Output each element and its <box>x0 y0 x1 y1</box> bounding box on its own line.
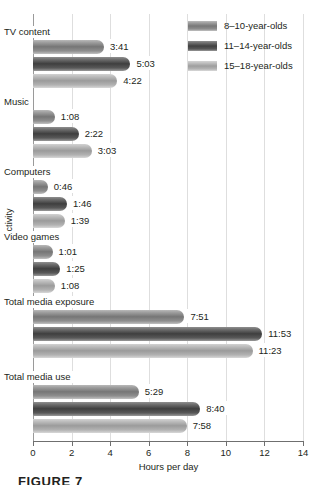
bar-value-label: 7:51 <box>187 309 211 323</box>
bar <box>33 144 92 158</box>
x-axis-tick-label: 0 <box>21 447 45 458</box>
bar-value-label: 2:22 <box>82 126 106 140</box>
x-axis-tick-14 <box>303 441 304 446</box>
legend-item: 15–18-year-olds <box>188 56 293 71</box>
bar <box>33 327 262 341</box>
bar-row: 4:22 <box>33 74 303 88</box>
bar-value-label: 1:01 <box>56 244 80 258</box>
bar-value-label: 4:22 <box>120 73 144 87</box>
legend-item: 11–14-year-olds <box>188 36 293 51</box>
x-axis-tick-12 <box>264 441 265 446</box>
bar-row: 1:01 <box>33 245 303 259</box>
x-axis-tick-2 <box>72 441 73 446</box>
x-axis-tick-label: 4 <box>98 447 122 458</box>
x-axis-tick-label: 8 <box>175 447 199 458</box>
bar <box>33 310 184 324</box>
bar-value-label: 8:40 <box>203 401 227 415</box>
x-axis-tick-label: 6 <box>137 447 161 458</box>
figure-caption: FIGURE 7 <box>18 474 83 485</box>
legend-swatch <box>188 21 217 31</box>
bar-value-label: 0:46 <box>51 179 75 193</box>
bar-row: 5:29 <box>33 385 303 399</box>
bar-row: 11:53 <box>33 327 303 341</box>
x-axis-tick-8 <box>187 441 188 446</box>
bar-value-label: 3:41 <box>107 39 131 53</box>
bar <box>33 57 130 71</box>
chart-container: Activity Hours per day 8–10-year-olds11–… <box>0 0 316 485</box>
bar-row: 7:51 <box>33 310 303 324</box>
legend-swatch <box>188 41 217 51</box>
bar <box>33 197 67 211</box>
legend-label: 11–14-year-olds <box>224 40 292 51</box>
category-label: Total media exposure <box>2 296 97 308</box>
bar-value-label: 1:08 <box>58 278 82 292</box>
bar-row: 8:40 <box>33 402 303 416</box>
x-axis-tick-label: 10 <box>214 447 238 458</box>
bar-row: 7:58 <box>33 419 303 433</box>
bar-row: 0:46 <box>33 180 303 194</box>
bar-row: 11:23 <box>33 344 303 358</box>
bar-row: 2:22 <box>33 127 303 141</box>
bar <box>33 214 65 228</box>
bar-value-label: 3:03 <box>95 143 119 157</box>
bar-value-label: 1:39 <box>68 213 92 227</box>
bar-value-label: 11:23 <box>256 343 284 357</box>
x-axis-tick-4 <box>110 441 111 446</box>
bar-row: 3:03 <box>33 144 303 158</box>
bar <box>33 40 104 54</box>
bar <box>33 245 53 259</box>
x-axis-title: Hours per day <box>33 461 304 472</box>
category-label: Total media use <box>2 371 74 383</box>
bar-value-label: 7:58 <box>190 418 214 432</box>
legend-label: 8–10-year-olds <box>224 20 287 31</box>
bar <box>33 127 79 141</box>
bar-value-label: 1:46 <box>70 196 94 210</box>
bar <box>33 402 200 416</box>
bar <box>33 344 253 358</box>
bar-value-label: 5:03 <box>133 56 157 70</box>
legend-item: 8–10-year-olds <box>188 16 293 31</box>
bar-row: 1:08 <box>33 110 303 124</box>
x-axis-tick-10 <box>226 441 227 446</box>
bar-value-label: 1:08 <box>58 109 82 123</box>
legend-label: 15–18-year-olds <box>224 60 293 71</box>
bar-value-label: 1:25 <box>63 261 87 275</box>
bar-row: 1:08 <box>33 279 303 293</box>
gridline-14 <box>303 14 304 441</box>
category-label: Computers <box>2 166 53 178</box>
category-label: Video games <box>2 231 62 243</box>
bar <box>33 74 117 88</box>
bar-value-label: 5:29 <box>142 384 166 398</box>
bar <box>33 262 60 276</box>
x-axis-tick-label: 14 <box>291 447 315 458</box>
bar <box>33 419 187 433</box>
bar-row: 1:46 <box>33 197 303 211</box>
bar <box>33 110 55 124</box>
bar-value-label: 11:53 <box>265 326 293 340</box>
category-label: TV content <box>2 26 53 38</box>
category-label: Music <box>2 96 32 108</box>
x-axis-tick-0 <box>33 441 34 446</box>
bar <box>33 385 139 399</box>
legend: 8–10-year-olds11–14-year-olds15–18-year-… <box>188 16 293 76</box>
x-axis-tick-6 <box>149 441 150 446</box>
x-axis-line <box>33 441 304 442</box>
y-axis-title: Activity <box>4 193 14 253</box>
bar <box>33 180 48 194</box>
bar <box>33 279 55 293</box>
x-axis-tick-label: 12 <box>252 447 276 458</box>
bar-row: 1:39 <box>33 214 303 228</box>
legend-swatch <box>188 61 217 71</box>
bar-row: 1:25 <box>33 262 303 276</box>
x-axis-tick-label: 2 <box>60 447 84 458</box>
